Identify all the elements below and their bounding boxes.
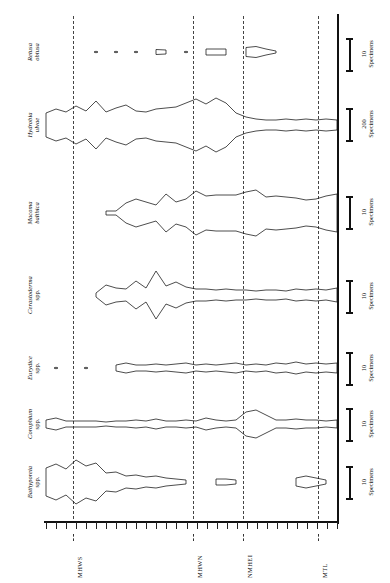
kite-polygon-cerastoderma-spp [96,271,337,319]
kite-polygon-bathyporeia-spp [216,479,236,485]
kite-polygon-corophium-spp [46,410,337,438]
kite-polygon-hydrobia-ulvae [46,98,337,152]
kite-curves [0,0,390,583]
kite-diagram-figure: MHWSMHWNNMHEIMTL RetusaobtusaHydrobiaulv… [0,0,390,583]
kite-polygon-macoma-balthica [106,190,337,236]
kite-mark [114,51,118,53]
kite-polygon-eurydice-spp [116,362,337,374]
kite-mark [84,367,88,369]
kite-polygon-bathyporeia-spp [46,460,186,504]
kite-polygon-bathyporeia-spp [296,476,326,488]
kite-polygon-retusa-obtusa [206,49,226,55]
kite-mark [54,367,58,369]
kite-polygon-retusa-obtusa [246,47,276,58]
kite-mark [94,51,98,53]
kite-mark [134,51,138,53]
kite-mark [184,51,188,53]
kite-polygon-retusa-obtusa [156,50,166,55]
